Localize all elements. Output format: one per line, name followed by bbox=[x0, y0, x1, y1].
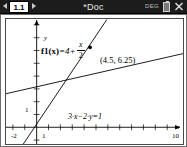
line-f1[interactable] bbox=[6, 54, 183, 94]
x-axis-label: x bbox=[176, 123, 179, 131]
fraction-x-over-2: x2 bbox=[77, 41, 85, 60]
fraction-numerator: x bbox=[77, 41, 85, 49]
fraction-denominator: 2 bbox=[77, 52, 85, 60]
graph-plot bbox=[6, 19, 183, 144]
point-coordinate-label[interactable]: (4.5, 6.25) bbox=[100, 55, 135, 65]
tick-label-x-1: 1 bbox=[42, 132, 46, 140]
intersection-point[interactable] bbox=[88, 45, 92, 49]
angle-mode-text: DEG bbox=[145, 3, 159, 9]
graph-work-area[interactable]: f1(x)=4+x2 (4.5, 6.25) 3·x−2·y=1 y x -2 … bbox=[0, 14, 187, 147]
function-label-f1[interactable]: f1(x)=4+x2 bbox=[41, 41, 86, 60]
close-icon[interactable] bbox=[174, 1, 184, 12]
line-eq2[interactable] bbox=[23, 19, 107, 144]
tick-label-y-1: 1 bbox=[25, 106, 29, 114]
angle-mode-indicator: DEG bbox=[145, 3, 159, 10]
tick-label-x-10: 10 bbox=[172, 132, 179, 140]
graph-canvas[interactable]: f1(x)=4+x2 (4.5, 6.25) 3·x−2·y=1 y x -2 … bbox=[5, 18, 184, 145]
y-axis-arrow bbox=[34, 20, 38, 25]
y-axis-label: y bbox=[44, 34, 47, 42]
equation-label-3x-2y[interactable]: 3·x−2·y=1 bbox=[68, 112, 102, 121]
tinspire-screen: 1.1 *Doc DEG bbox=[0, 0, 187, 147]
function-equals: =4+ bbox=[59, 46, 76, 56]
tick-label-y-neg2: -2 bbox=[27, 144, 33, 145]
tick-label-x-neg2: -2 bbox=[11, 132, 17, 140]
battery-icon bbox=[163, 2, 170, 12]
document-toolbar: 1.1 *Doc DEG bbox=[0, 0, 187, 14]
function-name: f1(x) bbox=[41, 46, 59, 56]
